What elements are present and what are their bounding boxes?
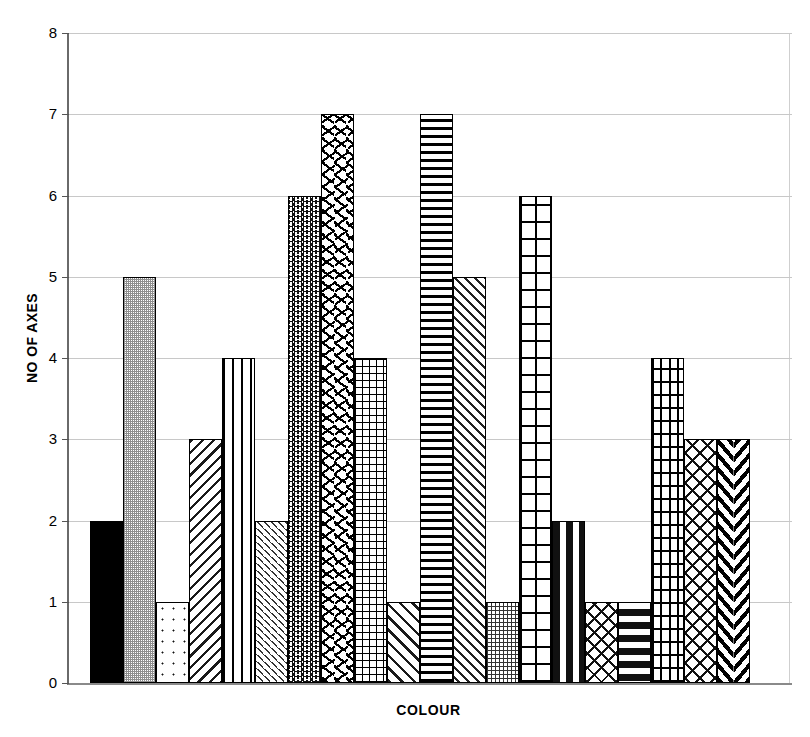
bar-17: [618, 602, 651, 683]
bar-7: [288, 196, 321, 684]
bar-19: [684, 439, 717, 683]
bar-20: [717, 439, 750, 683]
bar-12: [453, 277, 486, 683]
y-tick-label: 3: [11, 431, 57, 446]
bar-11: [420, 114, 453, 683]
bar-3: [156, 602, 189, 683]
y-tick-label: 5: [11, 269, 57, 284]
y-tick-label: 2: [11, 513, 57, 528]
y-tick-label: 6: [11, 188, 57, 203]
bar-8: [321, 114, 354, 683]
bar-14: [519, 196, 552, 684]
bar-10: [387, 602, 420, 683]
bar-5: [222, 358, 255, 683]
y-tick-label: 0: [11, 675, 57, 690]
bar-4: [189, 439, 222, 683]
y-tick-label: 8: [11, 25, 57, 40]
x-axis-title: COLOUR: [67, 702, 790, 718]
y-tick-label: 7: [11, 106, 57, 121]
y-tick-mark: [62, 683, 69, 684]
bar-6: [255, 521, 288, 684]
bar-2: [123, 277, 156, 683]
y-tick-label: 4: [11, 350, 57, 365]
bar-15: [552, 521, 585, 684]
bar-1: [90, 521, 123, 684]
bar-16: [585, 602, 618, 683]
bar-chart: NO OF AXES 012345678 COLOUR: [0, 0, 810, 737]
bar-18: [651, 358, 684, 683]
y-tick-label: 1: [11, 594, 57, 609]
bar-13: [486, 602, 519, 683]
bars-layer: [67, 33, 790, 683]
bar-9: [354, 358, 387, 683]
